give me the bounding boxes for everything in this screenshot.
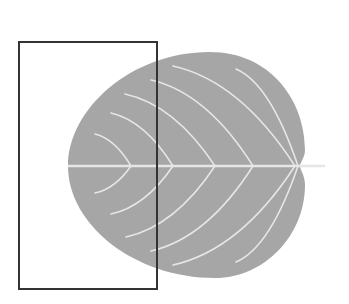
- leaf-diagram: [0, 0, 349, 304]
- leaf-illustration: [0, 0, 349, 304]
